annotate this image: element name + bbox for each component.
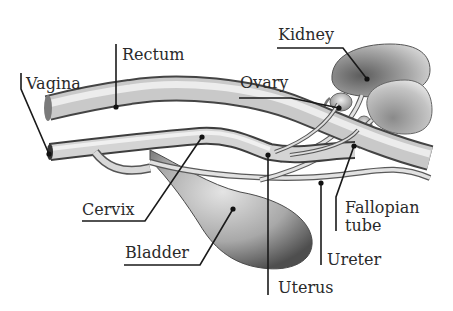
kidney-label: Kidney	[278, 25, 334, 44]
ureter-label: Ureter	[327, 250, 382, 269]
rectum-label: Rectum	[122, 45, 184, 64]
uterus-label: Uterus	[278, 278, 334, 297]
ovary-label: Ovary	[240, 73, 288, 92]
cervix-label: Cervix	[82, 200, 135, 219]
anatomy-diagram: Kidney Rectum Vagina Ovary Cervix Bladde…	[0, 0, 453, 311]
fallopian-label-line2: tube	[345, 216, 381, 235]
fallopian-label-line1: Fallopian	[345, 198, 420, 217]
bladder-label: Bladder	[125, 243, 189, 262]
vagina-label: Vagina	[25, 74, 81, 93]
